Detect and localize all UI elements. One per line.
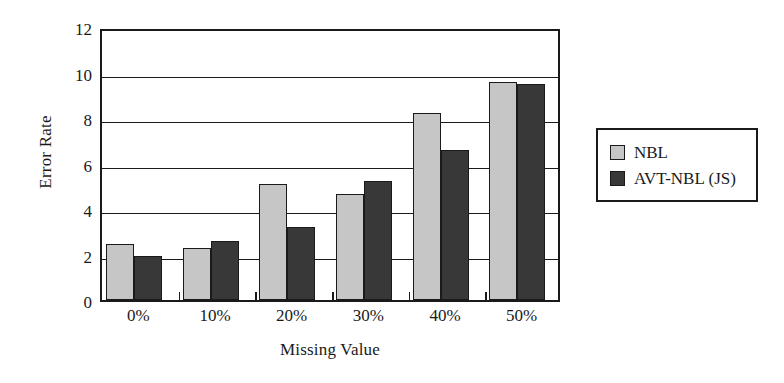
y-axis-tick-label: 12 — [58, 21, 92, 38]
legend-swatch-nbl-icon — [610, 145, 625, 160]
bar-nbl-0pct[interactable] — [106, 244, 134, 300]
bar-avt-nbl-js-20pct[interactable] — [287, 227, 315, 300]
bar-nbl-40pct[interactable] — [413, 113, 441, 300]
bar-chart-figure: Error Rate 024681012 0%10%20%30%40%50% M… — [0, 0, 784, 383]
x-axis-tick-label-0pct: 0% — [104, 306, 172, 326]
y-axis-tick-label: 4 — [58, 203, 92, 220]
y-axis-tick-label: 10 — [58, 66, 92, 83]
bar-group — [332, 31, 409, 300]
bar-avt-nbl-js-10pct[interactable] — [211, 241, 239, 300]
x-axis-tick-mark — [255, 292, 257, 300]
y-axis-tick-label: 0 — [58, 294, 92, 311]
x-axis-tick-mark — [179, 292, 181, 300]
x-axis-tick-mark — [332, 292, 334, 300]
x-axis-tick-label-30pct: 30% — [334, 306, 402, 326]
y-axis-tick-labels: 024681012 — [50, 0, 92, 383]
y-axis-tick-label: 8 — [58, 112, 92, 129]
bar-group — [179, 31, 256, 300]
bar-avt-nbl-js-0pct[interactable] — [134, 256, 162, 300]
bar-group — [485, 31, 562, 300]
y-axis-tick-label: 2 — [58, 248, 92, 265]
bar-nbl-20pct[interactable] — [259, 184, 287, 300]
x-axis-tick-labels: 0%10%20%30%40%50% — [100, 306, 560, 332]
x-axis-title: Missing Value — [100, 340, 560, 360]
x-axis-tick-label-40pct: 40% — [411, 306, 479, 326]
x-axis-tick-mark — [485, 292, 487, 300]
legend-label: NBL — [634, 144, 668, 161]
bar-series-container — [102, 31, 558, 300]
bar-group — [255, 31, 332, 300]
bar-nbl-30pct[interactable] — [336, 194, 364, 300]
bar-avt-nbl-js-40pct[interactable] — [441, 150, 469, 300]
bar-group — [409, 31, 486, 300]
legend-label: AVT-NBL (JS) — [634, 170, 736, 187]
chart-legend: NBLAVT-NBL (JS) — [596, 128, 758, 202]
bar-avt-nbl-js-30pct[interactable] — [364, 181, 392, 300]
y-axis-tick-label: 6 — [58, 157, 92, 174]
x-axis-tick-mark — [409, 292, 411, 300]
bar-nbl-10pct[interactable] — [183, 248, 211, 300]
x-axis-tick-label-20pct: 20% — [258, 306, 326, 326]
bar-group — [102, 31, 179, 300]
bar-avt-nbl-js-50pct[interactable] — [517, 84, 545, 300]
legend-swatch-avt-nbl-js-icon — [610, 171, 625, 186]
legend-item-nbl[interactable]: NBL — [610, 139, 746, 165]
x-axis-tick-label-10pct: 10% — [181, 306, 249, 326]
bar-nbl-50pct[interactable] — [489, 82, 517, 300]
plot-area — [100, 29, 560, 302]
legend-item-avt-nbl-js[interactable]: AVT-NBL (JS) — [610, 165, 746, 191]
x-axis-tick-label-50pct: 50% — [488, 306, 556, 326]
